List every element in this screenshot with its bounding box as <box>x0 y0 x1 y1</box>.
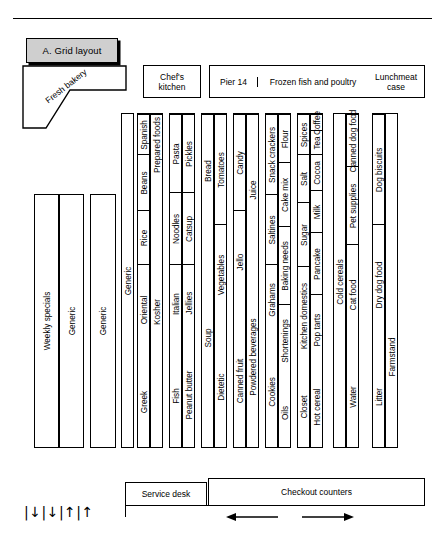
lunchmeat-case-cell: Lunchmeat case <box>368 72 424 92</box>
shelf-label: Cat food <box>348 280 357 311</box>
shelf-segment: Canned fruit <box>234 312 245 449</box>
shelf-label: Dry dog food <box>374 262 383 309</box>
gondola-1: GreekOrientalRiceBeansSpanishKosherPrepa… <box>137 113 163 448</box>
shelf-column-generic-3: Generic <box>121 113 134 448</box>
gondola-5-column-2: OilsShorteningsBaking needsCake mixFlour <box>278 113 291 448</box>
shelf-label: Powdered beverages <box>248 318 257 395</box>
pier-14-cell: Pier 14 <box>210 77 258 87</box>
gondola-4-column-2: Powdered beveragesJuice <box>246 113 259 448</box>
store-floor-plan: A. Grid layout Fresh bakery Chef's kitch… <box>0 0 438 544</box>
shelf-label: Tomatoes <box>216 152 225 188</box>
shelf-segment: Salt <box>298 154 309 203</box>
checkout-counters: Checkout counters <box>208 478 425 506</box>
shelf-segment: Farmstand <box>386 264 397 449</box>
shelf-segment: Grahams <box>266 264 277 335</box>
shelf-segment: Oriental <box>138 264 149 355</box>
shelf-segment: Candy <box>234 114 245 211</box>
pier-14-label: Pier 14 <box>220 77 247 87</box>
shelf-segment: Cocoa <box>311 154 322 191</box>
shelf-segment: Vegetables <box>215 224 226 325</box>
shelf-label: Candy <box>235 151 244 175</box>
service-desk-label: Service desk <box>142 489 191 499</box>
shelf-segment: Jello <box>234 210 245 313</box>
shelf-label: Jellies <box>184 292 193 315</box>
page-title-plaque: A. Grid layout <box>26 38 118 63</box>
service-desk-floor-line <box>125 505 208 506</box>
top-divider-rule <box>13 18 432 19</box>
shelf-segment: Tomatoes <box>215 114 226 225</box>
shelf-label-weekly-specials: Weekly specials <box>42 292 51 351</box>
shelf-label: Peanut butter <box>184 370 193 419</box>
shelf-label: Greek <box>139 390 148 412</box>
department-chefs-kitchen: Chef's kitchen <box>143 65 201 98</box>
shelf-segment: Juice <box>247 114 258 265</box>
shelf-label: Spices <box>299 123 308 148</box>
shelf-segment: Baking needs <box>279 226 290 305</box>
department-fresh-bakery: Fresh bakery <box>22 65 132 131</box>
shelf-label: Snack crackers <box>267 127 276 183</box>
shelf-segment: Pancake <box>311 232 322 295</box>
lunchmeat-label-line2: case <box>387 82 405 92</box>
shelf-segment: Kosher <box>151 174 162 449</box>
shelf-segment: Noodles <box>170 192 181 265</box>
checkout-counters-label: Checkout counters <box>281 487 352 497</box>
shelf-segment: Water <box>347 344 358 449</box>
gondola-3-column-2: DieteticVegetablesTomatoes <box>214 113 227 448</box>
shelf-column-generic-2: Generic <box>90 194 116 448</box>
frozen-fish-poultry-label: Frozen fish and poultry <box>270 77 356 87</box>
shelf-label: Canned fruit <box>235 358 244 403</box>
shelf-segment: Pasta <box>170 114 181 193</box>
shelf-label: Kosher <box>152 299 161 325</box>
shelf-segment: Sugar <box>298 202 309 267</box>
shelf-label: Saltines <box>267 215 276 244</box>
shelf-label: Juice <box>248 180 257 199</box>
gondola-8: LitterDry dog foodDog biscuitsFarmstand <box>372 113 398 448</box>
shelf-label: Spanish <box>139 120 148 150</box>
shelf-segment: Closet <box>298 364 309 449</box>
shelf-segment: Dietetic <box>215 324 226 449</box>
shelf-segment: Kitchen domestics <box>298 266 309 365</box>
chefs-kitchen-label-line2: kitchen <box>159 82 186 92</box>
shelf-segment: Cake mix <box>279 162 290 227</box>
service-desk-wall-stub <box>125 505 126 517</box>
gondola-2-column-2: Peanut butterJelliesCatsupPickles <box>182 113 195 448</box>
shelf-label: Kitchen domestics <box>299 283 308 349</box>
shelf-segment: Spices <box>298 114 309 155</box>
shelf-label: Dietetic <box>216 373 225 400</box>
shelf-label: Farmstand <box>387 337 396 376</box>
shelf-label: Pickles <box>184 141 193 167</box>
shelf-label: Beans <box>139 171 148 194</box>
gondola-4: Canned fruitJelloCandyPowdered beverages… <box>233 113 259 448</box>
shelf-label: Tea <box>312 136 321 149</box>
shelf-segment: Snack crackers <box>266 114 277 195</box>
shelf-segment: Peanut butter <box>183 340 194 449</box>
gondola-7-column-1: Cold cereals <box>333 113 346 448</box>
service-desk: Service desk <box>125 482 207 506</box>
shelf-segment: Dog biscuits <box>373 114 384 225</box>
shelf-segment: Fish <box>170 342 181 449</box>
shelf-label: Jello <box>235 254 244 271</box>
shelf-label: Pancake <box>312 248 321 280</box>
shelf-segment: Beans <box>138 154 149 211</box>
gondola-5: CookiesGrahamsSaltinesSnack crackersOils… <box>265 113 291 448</box>
gondola-7: Cold cerealsWaterCat foodPet suppliesCan… <box>333 113 359 448</box>
shelf-segment: Saltines <box>266 194 277 265</box>
shelf-label: Shortenings <box>280 319 289 363</box>
shelf-segment: Prepared foods <box>151 114 162 175</box>
shelf-segment: Cat food <box>347 244 358 345</box>
gondola-6-column-1: ClosetKitchen domesticsSugarSaltSpices <box>297 113 310 448</box>
gondola-5-column-1: CookiesGrahamsSaltinesSnack crackers <box>265 113 278 448</box>
shelf-segment: Flour <box>279 114 290 163</box>
shelf-label: Cake mix <box>280 178 289 212</box>
shelf-label-generic-2: Generic <box>99 307 108 336</box>
lunchmeat-label-line1: Lunchmeat <box>375 72 417 82</box>
shelf-label-generic-1: Generic <box>67 307 76 336</box>
shelf-label: Noodles <box>171 214 180 244</box>
shelf-label: Coffee <box>312 111 321 135</box>
shelf-label: Water <box>348 386 357 408</box>
traffic-flow-left-icon <box>226 512 278 522</box>
shelf-segment: Catsup <box>183 192 194 265</box>
shelf-segment: Hot cereal <box>311 364 322 449</box>
shelf-label: Italian <box>171 293 180 315</box>
gondola-7-column-2: WaterCat foodPet suppliesCanned dog food <box>346 113 359 448</box>
